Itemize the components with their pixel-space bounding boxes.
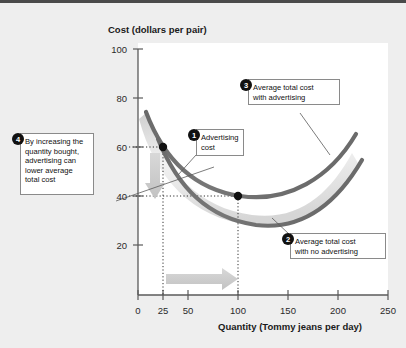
y-tick-40: 40	[116, 191, 127, 202]
leader-3	[300, 113, 330, 155]
x-tick-100: 100	[230, 305, 246, 316]
callout-2-text: Average total cost with no advertising	[295, 237, 382, 256]
x-axis-title: Quantity (Tommy jeans per day)	[218, 321, 362, 332]
curve-atc-no-advertising	[158, 139, 362, 226]
y-tick-60: 60	[116, 142, 127, 153]
x-tick-25: 25	[158, 305, 169, 316]
x-tick-labels: 0 25 50 100 150 200 250	[135, 305, 396, 316]
callout-advertising-cost: Advertising cost	[196, 129, 244, 156]
callout-1-text: Advertising cost	[201, 133, 240, 152]
y-axis-title: Cost (dollars per pair)	[108, 24, 207, 35]
callout-badge-3: 3	[240, 79, 252, 91]
callout-atc-no-advertising: Average total cost with no advertising	[290, 233, 386, 259]
callout-4-text: By increasing the quantity bought, adver…	[25, 137, 90, 185]
point-100-40	[234, 192, 242, 200]
y-tick-80: 80	[116, 93, 127, 104]
callout-advertising-lowers-atc: By increasing the quantity bought, adver…	[20, 133, 94, 195]
quantity-increase-arrow	[166, 268, 238, 290]
y-tick-100: 100	[111, 44, 127, 55]
callout-3-text: Average total cost with advertising	[253, 83, 336, 102]
callout-badge-1: 1	[188, 129, 200, 141]
callout-atc-with-advertising: Average total cost with advertising	[248, 79, 340, 105]
x-tick-200: 200	[330, 305, 346, 316]
y-tick-labels: 100 80 60 40 20	[111, 44, 127, 251]
point-25-60	[159, 143, 167, 151]
x-tick-50: 50	[183, 305, 194, 316]
x-tick-150: 150	[280, 305, 296, 316]
y-tick-20: 20	[116, 240, 127, 251]
callout-badge-4: 4	[12, 133, 24, 145]
x-tick-0: 0	[135, 305, 140, 316]
x-tick-250: 250	[380, 305, 396, 316]
figure-root: Cost (dollars per pair) Quantity (Tommy …	[0, 0, 406, 348]
callout-badge-2: 2	[282, 233, 294, 245]
